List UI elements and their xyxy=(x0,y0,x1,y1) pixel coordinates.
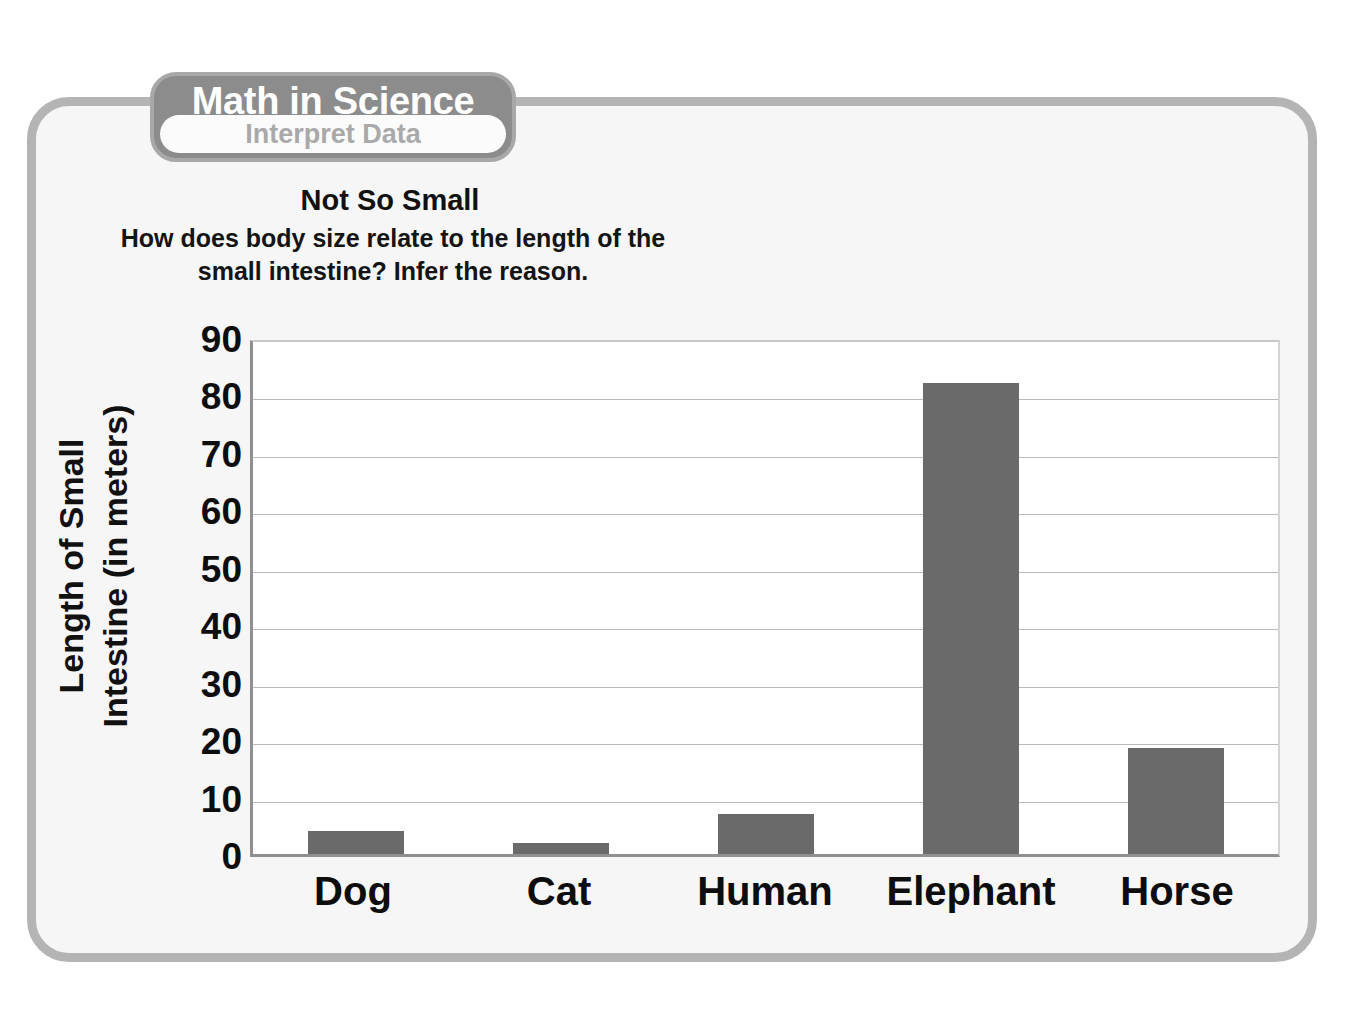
bar-horse xyxy=(1128,748,1224,854)
bar-slot xyxy=(868,342,1073,854)
x-label-dog: Dog xyxy=(250,865,456,925)
y-axis-title: Length of Small Intestine (in meters) xyxy=(47,351,139,781)
plot-area xyxy=(250,340,1280,857)
y-tick-label: 80 xyxy=(158,378,242,415)
x-label-elephant: Elephant xyxy=(868,865,1074,925)
x-label-cat: Cat xyxy=(456,865,662,925)
y-axis-title-line2: Intestine (in meters) xyxy=(93,404,137,727)
y-tick-label: 60 xyxy=(158,493,242,530)
bar-series xyxy=(253,342,1278,854)
bar-human xyxy=(718,814,814,854)
question-text-part2: the reason. xyxy=(448,257,588,285)
activity-title: Not So Small xyxy=(120,183,660,217)
x-axis-labels: DogCatHumanElephantHorse xyxy=(250,865,1280,925)
y-tick-label: 10 xyxy=(158,781,242,818)
activity-question: How does body size relate to the length … xyxy=(108,222,678,288)
y-tick-label: 90 xyxy=(158,321,242,358)
x-label-human: Human xyxy=(662,865,868,925)
y-tick-label: 30 xyxy=(158,666,242,703)
bar-chart: Length of Small Intestine (in meters) 90… xyxy=(60,320,1330,940)
x-label-horse: Horse xyxy=(1074,865,1280,925)
bar-dog xyxy=(308,831,404,854)
y-tick-label: 20 xyxy=(158,723,242,760)
bar-slot xyxy=(663,342,868,854)
y-axis-title-line1: Length of Small xyxy=(49,404,93,727)
bar-cat xyxy=(513,843,609,854)
badge-subtitle-pill: Interpret Data xyxy=(160,115,506,153)
question-emphasis-infer: Infer xyxy=(394,257,448,285)
badge-subtitle: Interpret Data xyxy=(160,115,506,153)
y-tick-label: 0 xyxy=(158,838,242,875)
bar-slot xyxy=(253,342,458,854)
y-tick-label: 50 xyxy=(158,551,242,588)
math-in-science-badge: Math in Science Interpret Data xyxy=(150,72,516,162)
y-tick-label: 40 xyxy=(158,608,242,645)
bar-slot xyxy=(1073,342,1278,854)
bar-elephant xyxy=(923,383,1019,854)
y-axis-ticks: 9080706050403020100 xyxy=(158,340,242,857)
y-tick-label: 70 xyxy=(158,436,242,473)
bar-slot xyxy=(458,342,663,854)
plot-wrapper: 9080706050403020100 xyxy=(250,340,1280,857)
